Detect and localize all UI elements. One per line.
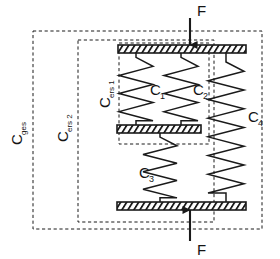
spring-c4-label: C 4 <box>248 108 263 128</box>
spring-c2-label-sub: 2 <box>203 91 208 101</box>
spring-c4-label-sub: 4 <box>258 118 263 128</box>
spring-c1-label-sub: 1 <box>160 91 165 101</box>
plates-group <box>117 45 246 210</box>
boundary-c-ers-1-label-sub: ers 1 <box>107 80 116 98</box>
spring-c3-label-sub: 3 <box>149 174 154 184</box>
spring-c4-coil <box>208 53 244 202</box>
force-top-label: F <box>197 2 206 19</box>
spring-c1-coil <box>119 53 153 125</box>
spring-c1-label: C 1 <box>150 81 165 101</box>
boundary-c-ers-2-label: C ers 2 <box>54 114 74 142</box>
boundary-c-ers-2-label-sub: ers 2 <box>65 114 74 132</box>
boundary-c-ges-label-sub: ges <box>19 122 28 135</box>
spring-c3-label: C 3 <box>139 164 154 184</box>
boundary-c-ges-label: C ges <box>8 122 28 145</box>
middle-plate <box>117 125 201 133</box>
boundary-c-ers-1-label: C ers 1 <box>96 80 116 108</box>
top-plate <box>118 45 246 53</box>
diagram-canvas: F F C 1 C 2 C 3 C 4 C ges <box>0 0 280 259</box>
spring-c2-label: C 2 <box>193 81 208 101</box>
force-bottom-label: F <box>197 241 206 258</box>
bottom-plate <box>117 202 246 210</box>
spring-network-diagram: F F C 1 C 2 C 3 C 4 C ges <box>0 0 280 259</box>
